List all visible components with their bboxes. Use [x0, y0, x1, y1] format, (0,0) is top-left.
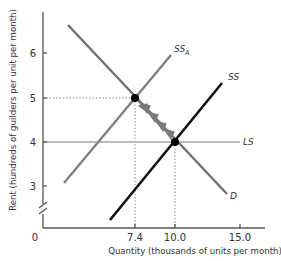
x-tick-7-4: 7.4 — [127, 232, 143, 243]
demand-label: D — [230, 191, 237, 201]
y-tick-5: 5 — [30, 93, 36, 104]
equilibrium-short-run — [131, 94, 139, 102]
ls-label: LS — [243, 137, 254, 147]
y-tick-6: 6 — [30, 48, 36, 59]
equilibrium-long-run — [171, 138, 179, 146]
chart: 6 5 4 3 0 7.4 10.0 15.0 Quantity (thousa… — [0, 0, 281, 261]
y-tick-4: 4 — [30, 137, 36, 148]
axis-break-mark — [39, 208, 47, 214]
x-tick-15: 15.0 — [229, 232, 251, 243]
y-tick-3: 3 — [30, 181, 36, 192]
ss-line — [110, 83, 222, 220]
adjustment-arrows — [138, 101, 174, 139]
origin-label: 0 — [32, 232, 38, 243]
x-axis-label: Quantity (thousands of units per month) — [108, 246, 281, 256]
y-axis-label: Rent (hundreds of guilders per unit per … — [8, 9, 18, 211]
ss-label: SS — [228, 72, 239, 82]
ss-a-label: SSA — [174, 44, 190, 57]
x-tick-10: 10.0 — [164, 232, 186, 243]
